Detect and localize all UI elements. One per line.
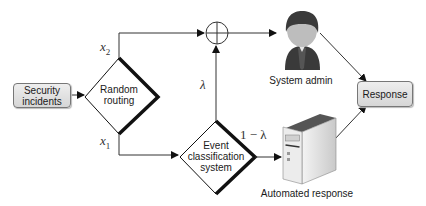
response-label: Response: [362, 89, 407, 100]
system-admin-label: System admin: [265, 75, 337, 86]
combiner-icon: [206, 22, 228, 44]
diagram-canvas: Security incidents Random routing Event …: [0, 0, 426, 206]
event-classification-label-1: Event: [184, 140, 248, 151]
random-routing-label-1: Random: [95, 84, 143, 95]
one-minus-lambda-label: 1 − λ: [240, 128, 267, 141]
event-classification-label-3: system: [184, 162, 248, 173]
random-routing-label: Random routing: [95, 84, 143, 106]
x1-label: x1: [100, 134, 110, 153]
edge-admin-response: [320, 33, 366, 81]
edge-server-response: [334, 106, 366, 140]
server-icon: [283, 114, 336, 184]
response-box: Response: [357, 81, 413, 107]
random-routing-label-2: routing: [95, 95, 143, 106]
edge-x2: [119, 33, 204, 58]
edge-x1: [119, 134, 178, 155]
security-incidents-label-1: Security: [22, 85, 61, 96]
event-classification-label: Event classification system: [184, 140, 248, 173]
automated-response-label: Automated response: [255, 188, 359, 199]
x2-label: x2: [100, 40, 110, 59]
security-incidents-label-2: incidents: [22, 96, 61, 107]
security-incidents-box: Security incidents: [13, 83, 71, 108]
person-icon: [285, 11, 320, 70]
lambda-label: λ: [200, 78, 206, 91]
event-classification-label-2: classification: [184, 151, 248, 162]
